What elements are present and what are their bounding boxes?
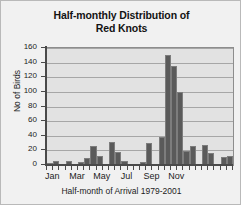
x-axis-tick [127, 166, 128, 170]
x-axis-tick [158, 166, 159, 170]
x-axis-tick [71, 166, 72, 170]
y-axis-line [45, 46, 47, 166]
y-axis-tick-label: 120 [11, 72, 37, 80]
x-axis-tick [65, 166, 66, 170]
chart-container: Half-monthly Distribution of Red Knots N… [0, 0, 241, 205]
x-axis-tick [232, 166, 233, 170]
x-axis-tick [83, 166, 84, 170]
bar-slot [227, 48, 233, 165]
y-axis-tick-label: 40 [11, 131, 37, 139]
x-axis-tick [220, 166, 221, 170]
x-axis-tick [52, 166, 53, 170]
x-axis-tick [133, 166, 134, 170]
x-axis-tick [176, 166, 177, 170]
chart-title-line-2: Red Knots [1, 22, 241, 35]
x-axis-tick [120, 166, 121, 170]
x-axis-tick [96, 166, 97, 170]
x-axis-tick [164, 166, 165, 170]
y-axis-tick-label: 20 [11, 145, 37, 153]
x-axis-tick [195, 166, 196, 170]
x-axis-tick [145, 166, 146, 170]
y-axis-tick-label: 80 [11, 102, 37, 110]
x-axis-tick [151, 166, 152, 170]
x-axis-tick [46, 166, 47, 170]
y-axis-tick-label: 160 [11, 43, 37, 51]
x-axis-tick [58, 166, 59, 170]
chart-title: Half-monthly Distribution of Red Knots [1, 9, 241, 35]
x-axis-tick [108, 166, 109, 170]
x-axis-tick [170, 166, 171, 170]
y-axis-tick-label: 0 [11, 160, 37, 168]
y-axis-tick-label: 100 [11, 87, 37, 95]
x-axis-title: Half-month of Arrival 1979-2001 [1, 186, 241, 196]
chart-title-line-1: Half-monthly Distribution of [53, 9, 189, 21]
x-axis-tick [89, 166, 90, 170]
x-axis-tick [226, 166, 227, 170]
y-axis-tick-label: 60 [11, 116, 37, 124]
y-axis-tick-label: 140 [11, 58, 37, 66]
x-axis-tick [201, 166, 202, 170]
x-axis-tick [77, 166, 78, 170]
x-axis-tick [189, 166, 190, 170]
x-axis-tick-label: Nov [159, 171, 193, 181]
x-axis-tick [139, 166, 140, 170]
bar-series [47, 48, 233, 165]
x-axis-tick [207, 166, 208, 170]
x-axis-tick [102, 166, 103, 170]
x-axis-tick [213, 166, 214, 170]
x-axis-tick [182, 166, 183, 170]
x-axis-tick [114, 166, 115, 170]
plot-area [46, 47, 234, 166]
